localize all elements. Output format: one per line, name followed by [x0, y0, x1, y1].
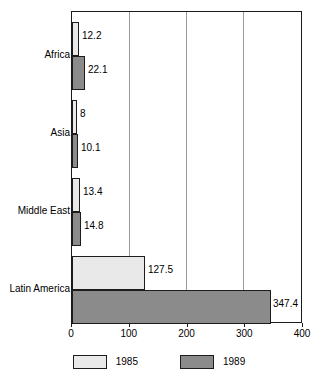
- value-label-latin-america-1985: 127.5: [148, 265, 173, 275]
- tick-mark-100: [129, 323, 130, 327]
- bar-middle-east-1989[interactable]: [72, 212, 81, 246]
- bar-asia-1985[interactable]: [72, 100, 77, 134]
- value-label-africa-1985: 12.2: [82, 31, 101, 41]
- value-label-asia-1989: 10.1: [81, 143, 100, 153]
- tick-mark-300: [244, 323, 245, 327]
- legend-label-1989: 1989: [223, 357, 245, 367]
- value-label-africa-1989: 22.1: [88, 65, 107, 75]
- value-label-latin-america-1989: 347.4: [273, 299, 298, 309]
- category-label-middle-east: Middle East: [18, 206, 70, 216]
- category-label-latin-america: Latin America: [9, 284, 70, 294]
- chart-legend: 1985 1989: [0, 352, 318, 372]
- category-label-asia: Asia: [51, 128, 70, 138]
- value-label-middle-east-1989: 14.8: [84, 221, 103, 231]
- bar-asia-1989[interactable]: [72, 134, 78, 168]
- tick-mark-200: [187, 323, 188, 327]
- legend-swatch-1989: [180, 355, 214, 369]
- tick-mark-400: [302, 323, 303, 327]
- tick-mark-0: [71, 323, 72, 327]
- legend-entry-1985[interactable]: 1985: [73, 355, 138, 369]
- plot-area: [71, 11, 302, 323]
- tick-label-300: 300: [224, 328, 264, 339]
- tick-label-0: 0: [51, 328, 91, 339]
- legend-label-1985: 1985: [116, 357, 138, 367]
- legend-entry-1989[interactable]: 1989: [180, 355, 245, 369]
- bar-latin-america-1985[interactable]: [72, 256, 145, 290]
- bar-latin-america-1989[interactable]: [72, 290, 271, 324]
- tick-label-200: 200: [167, 328, 207, 339]
- gridline-300: [243, 12, 244, 322]
- tick-label-400: 400: [282, 328, 318, 339]
- legend-swatch-1985: [73, 355, 107, 369]
- category-label-africa: Africa: [44, 50, 70, 60]
- gridline-200: [186, 12, 187, 322]
- value-label-asia-1985: 8: [80, 109, 86, 119]
- bar-chart: 12.2 22.1 8 10.1 13.4 14.8 127.5 347.4 A…: [0, 0, 318, 375]
- value-label-middle-east-1985: 13.4: [83, 187, 102, 197]
- tick-label-100: 100: [109, 328, 149, 339]
- bar-middle-east-1985[interactable]: [72, 178, 80, 212]
- chart-title: [71, 0, 303, 3]
- bar-africa-1985[interactable]: [72, 22, 79, 56]
- bar-africa-1989[interactable]: [72, 56, 85, 90]
